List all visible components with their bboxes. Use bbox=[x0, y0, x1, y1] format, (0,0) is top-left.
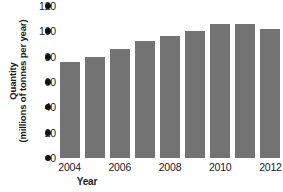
bar-2008 bbox=[160, 36, 180, 158]
bar-2004 bbox=[60, 62, 80, 158]
bar-2012 bbox=[260, 29, 280, 158]
bar-2010 bbox=[210, 24, 230, 158]
x-tick-label: 2004 bbox=[47, 161, 93, 173]
x-axis-title: Year bbox=[57, 176, 117, 187]
y-tick-marker-dot-icon bbox=[45, 54, 51, 60]
x-tick-label: 2012 bbox=[247, 161, 283, 173]
bar-2009 bbox=[185, 31, 205, 158]
y-tick-marker-dot-icon bbox=[45, 3, 51, 9]
bar-2007 bbox=[135, 41, 155, 158]
y-tick-marker-dot-icon bbox=[45, 130, 51, 136]
bar-2011 bbox=[235, 24, 255, 158]
bar-2006 bbox=[110, 49, 130, 158]
x-tick-label: 2008 bbox=[147, 161, 193, 173]
x-tick-label: 2010 bbox=[197, 161, 243, 173]
y-tick-marker-dot-icon bbox=[45, 79, 51, 85]
bar-chart: Quantity (millions of tonnes per year) Y… bbox=[0, 0, 283, 192]
plot-area bbox=[57, 6, 283, 158]
bar-2005 bbox=[85, 57, 105, 158]
x-tick-label: 2006 bbox=[97, 161, 143, 173]
